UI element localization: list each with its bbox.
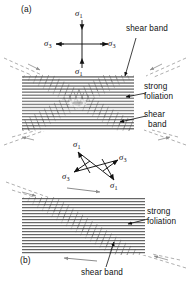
- panel-a-sigma1-bottom: σ1: [75, 66, 82, 76]
- panel-b-shear-band-label: shear band: [81, 268, 123, 277]
- panel-a-sigma3-right: σ3: [108, 38, 115, 48]
- sigma-subscript: 3: [123, 157, 126, 163]
- panel-a-strong-label: strong: [144, 82, 167, 91]
- sigma-subscript: 1: [79, 13, 82, 19]
- panel-a-shear-band-upper-label: shear band: [126, 24, 168, 33]
- panel-a-stress-cross: [56, 20, 108, 68]
- panel-a-shear-label: shear: [144, 110, 165, 119]
- panel-b-sigma1-lower-right: σ1: [110, 180, 117, 190]
- figure-canvas: [0, 0, 191, 283]
- sigma-subscript: 3: [112, 43, 115, 49]
- sigma-subscript: 3: [66, 176, 69, 182]
- panel-b-foliation-label: foliation: [147, 217, 176, 226]
- sigma-subscript: 1: [114, 185, 117, 191]
- sigma-subscript: 1: [79, 71, 82, 77]
- panel-b-sigma3-upper-right: σ3: [119, 152, 126, 162]
- panel-b-rock-block: [18, 184, 152, 272]
- panel-b-tag: (b): [20, 256, 31, 265]
- panel-b-sigma1-upper-left: σ1: [73, 139, 80, 149]
- panel-b-strong-label: strong: [147, 207, 170, 216]
- panel-a-band-label: band: [148, 120, 167, 129]
- panel-b-stress-cross: [74, 152, 118, 180]
- panel-a-sigma3-left: σ3: [44, 38, 51, 48]
- panel-a-sigma1-top: σ1: [75, 8, 82, 18]
- panel-a-foliation-label: foliation: [144, 92, 173, 101]
- shear-band-foliation-figure: (a) σ1 σ1 σ3 σ3 shear band strong foliat…: [0, 0, 191, 283]
- sigma-subscript: 3: [48, 43, 51, 49]
- panel-a-tag: (a): [21, 5, 32, 14]
- sigma-subscript: 1: [77, 144, 80, 150]
- panel-b-sigma3-lower-left: σ3: [62, 171, 69, 181]
